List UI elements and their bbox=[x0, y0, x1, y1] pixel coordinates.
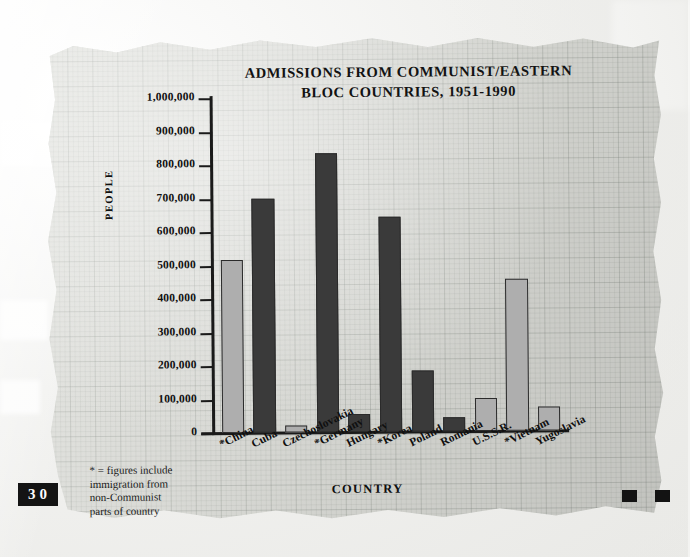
plot-area: 1,000,000900,000800,000700,000600,000500… bbox=[211, 95, 562, 433]
chart-title-line-1: ADMISSIONS FROM COMMUNIST/EASTERN bbox=[198, 60, 618, 83]
y-axis-tick-mark bbox=[201, 433, 213, 435]
y-axis-tick-label: 1,000,000 bbox=[147, 90, 195, 102]
y-axis-tick-label: 0 bbox=[191, 425, 197, 437]
y-axis-tick-mark bbox=[200, 266, 212, 268]
y-axis-tick-mark bbox=[199, 165, 211, 167]
footnote-line-3: non-Communist bbox=[90, 490, 226, 505]
bar-korea bbox=[378, 217, 402, 432]
footnote-line-1: * = figures include bbox=[89, 463, 225, 478]
registration-mark-icon bbox=[655, 490, 670, 502]
x-axis-title: COUNTRY bbox=[332, 482, 404, 498]
y-axis-tick-label: 800,000 bbox=[156, 157, 195, 169]
page-number-badge: 30 bbox=[18, 483, 58, 506]
y-axis-tick-mark bbox=[200, 333, 212, 335]
bar-vietnam bbox=[505, 278, 528, 431]
bar-germany bbox=[315, 153, 339, 432]
y-axis-title: PEOPLE bbox=[103, 169, 114, 219]
footnote-line-2: immigration from bbox=[90, 477, 226, 492]
y-axis-tick-label: 100,000 bbox=[158, 392, 197, 404]
chart-figure: ADMISSIONS FROM COMMUNIST/EASTERN BLOC C… bbox=[0, 0, 690, 557]
bar-china bbox=[221, 260, 244, 433]
y-axis-tick-mark bbox=[199, 132, 211, 134]
footnote-line-4: parts of country bbox=[90, 504, 226, 519]
registration-mark-icon bbox=[622, 490, 637, 502]
y-axis-tick-mark bbox=[201, 366, 213, 368]
y-axis-tick-label: 300,000 bbox=[158, 325, 197, 337]
footnote: * = figures include immigration from non… bbox=[89, 463, 225, 518]
y-axis-tick-label: 600,000 bbox=[157, 224, 196, 236]
y-axis-tick-label: 700,000 bbox=[157, 191, 196, 203]
y-axis-tick-mark bbox=[199, 199, 211, 201]
y-axis-tick-mark bbox=[199, 98, 211, 100]
y-axis-tick-mark bbox=[201, 400, 213, 402]
bar-cuba bbox=[252, 198, 276, 433]
y-axis-tick-label: 200,000 bbox=[158, 358, 197, 370]
y-axis-tick-label: 900,000 bbox=[156, 124, 195, 136]
y-axis-tick-label: 400,000 bbox=[157, 291, 196, 303]
bar-poland bbox=[411, 370, 434, 431]
y-axis-tick-mark bbox=[200, 299, 212, 301]
y-axis-tick-label: 500,000 bbox=[157, 258, 196, 270]
y-axis-tick-mark bbox=[200, 232, 212, 234]
